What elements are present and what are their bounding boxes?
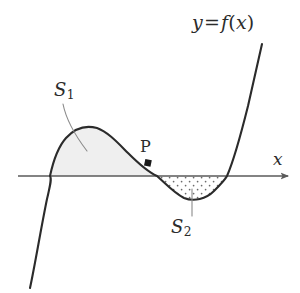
region-s2-label-subscript: 2 <box>184 225 192 239</box>
point-p-label: P <box>140 139 151 155</box>
function-label-variable: x <box>236 11 247 33</box>
region-s1-label: S1 <box>54 81 75 102</box>
region-s1-label-base: S <box>54 79 66 100</box>
point-p-marker <box>144 159 152 167</box>
function-label-equals: = <box>203 11 221 33</box>
function-label: y=f(x) <box>192 13 254 32</box>
region-s2-label-base: S <box>171 216 183 237</box>
math-figure: y=f(x) x S1 S2 P <box>0 0 300 293</box>
function-label-paren-close: ) <box>247 11 255 33</box>
x-axis-label: x <box>273 151 283 168</box>
region-s2-label: S2 <box>171 218 192 239</box>
region-s1-label-subscript: 1 <box>67 88 75 102</box>
function-label-y: y <box>192 11 203 33</box>
function-label-paren-open: ( <box>228 11 236 33</box>
